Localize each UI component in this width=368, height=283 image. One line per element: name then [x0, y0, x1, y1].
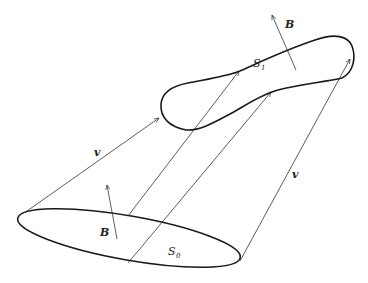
velocity-vectors [27, 59, 350, 263]
surface-label-s0: S 0 [168, 245, 181, 260]
field-label-bottom: B [99, 226, 109, 239]
surface-s1 [161, 36, 354, 130]
flux-diagram: B B v v S 1 S 0 [0, 0, 368, 283]
surface-label-s1: S 1 [253, 57, 265, 72]
surface-s0 [14, 197, 244, 280]
svg-text:0: 0 [176, 252, 181, 260]
field-label-top: B [284, 18, 294, 31]
velocity-arrow-4 [240, 59, 350, 261]
velocity-arrow-3 [128, 92, 271, 263]
velocity-label-right: v [292, 168, 299, 181]
velocity-arrow-2 [128, 71, 239, 216]
velocity-label-left: v [94, 146, 101, 159]
svg-text:S: S [253, 57, 261, 70]
velocity-arrow-1 [27, 118, 159, 211]
svg-text:1: 1 [261, 64, 265, 72]
svg-text:S: S [168, 245, 176, 258]
